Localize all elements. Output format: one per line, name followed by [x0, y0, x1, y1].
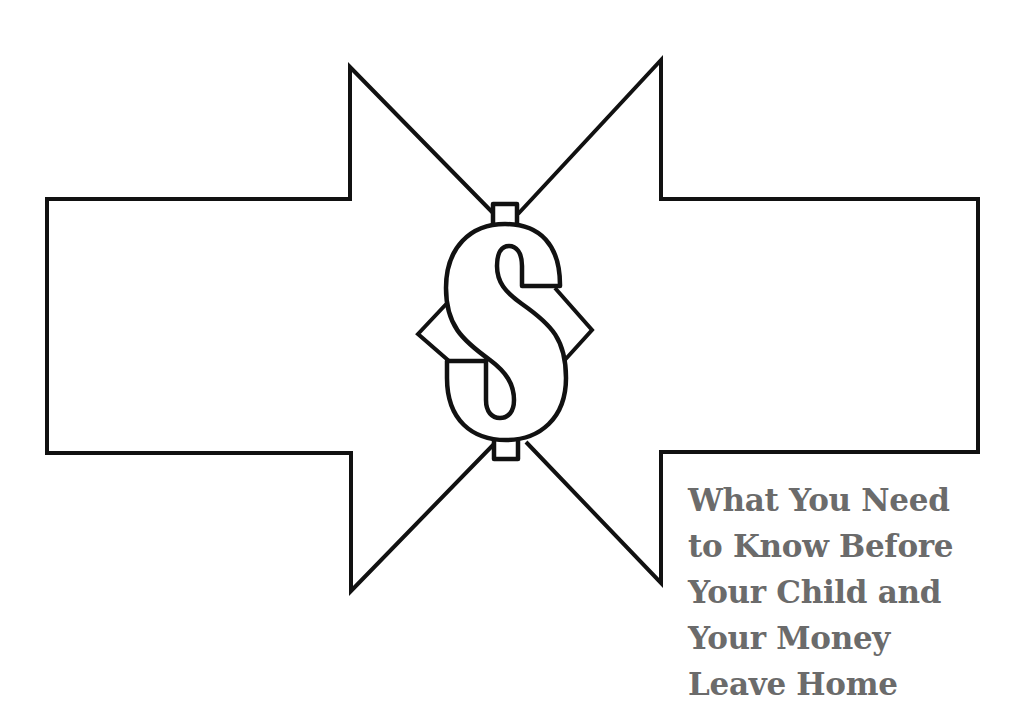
dollar-sign-icon [446, 204, 566, 459]
title-line-5: Leave Home [688, 661, 1018, 707]
title-line-2: to Know Before [688, 523, 1018, 569]
title-line-4: Your Money [688, 615, 1018, 661]
title-line-3: Your Child and [688, 569, 1018, 615]
cover-title: What You Need to Know Before Your Child … [688, 477, 1018, 707]
title-line-1: What You Need [688, 477, 1018, 523]
